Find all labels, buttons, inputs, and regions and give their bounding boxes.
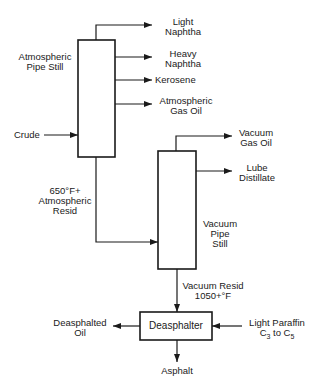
label-line: Gas Oil: [234, 138, 278, 148]
vacuum-pipe-still-label: Vacuum Pipe Still: [196, 219, 244, 249]
label-line: Naphtha: [155, 59, 211, 69]
label-line: Resid: [33, 206, 97, 216]
label-text: C: [260, 327, 267, 338]
vacuum-pipe-still-box: [158, 151, 196, 269]
vacuum-resid-label: Vacuum Resid 1050+°F: [180, 281, 246, 301]
carbon-range: C3 to C5: [244, 328, 310, 342]
label-text: to C: [270, 327, 290, 338]
atmospheric-pipe-still-box: [78, 40, 115, 157]
crude-label: Crude: [14, 130, 40, 140]
label-line: Pipe Still: [14, 62, 76, 72]
label-line: Oil: [50, 328, 110, 338]
light-naphtha-label: Light Naphtha: [155, 17, 211, 37]
kerosene-label: Kerosene: [155, 75, 196, 85]
label-line: Distillate: [234, 173, 280, 183]
label-line: 1050+°F: [180, 291, 246, 301]
asphalt-label: Asphalt: [156, 366, 198, 376]
heavy-naphtha-label: Heavy Naphtha: [155, 49, 211, 69]
subscript: 5: [290, 333, 294, 340]
label-line: Naphtha: [155, 27, 211, 37]
lube-distillate-label: Lube Distillate: [234, 163, 280, 183]
atmospheric-pipe-still-label: Atmospheric Pipe Still: [14, 52, 76, 72]
deasphalter-label: Deasphalter: [140, 312, 212, 340]
label-line: Still: [196, 239, 244, 249]
deasphalted-oil-label: Deasphalted Oil: [50, 318, 110, 338]
atmospheric-gas-oil-label: Atmospheric Gas Oil: [155, 96, 217, 116]
label-line: Gas Oil: [155, 106, 217, 116]
light-paraffin-label: Light Paraffin C3 to C5: [244, 318, 310, 342]
atmospheric-resid-label: 650°F+ Atmospheric Resid: [33, 186, 97, 216]
vacuum-gas-oil-label: Vacuum Gas Oil: [234, 128, 278, 148]
